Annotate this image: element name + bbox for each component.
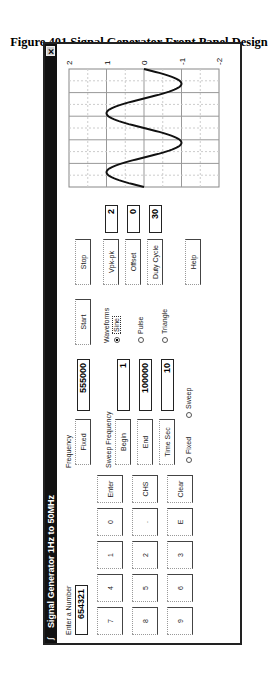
fixed-frequency-button[interactable]: Fixed — [75, 419, 91, 465]
start-button[interactable]: Start — [75, 299, 91, 345]
frequency-label: Frequency — [65, 435, 72, 468]
waveform-chart: 210-1-2 — [59, 49, 239, 191]
keypad-button[interactable]: 4 — [97, 574, 123, 602]
keypad-button[interactable]: 7 — [97, 607, 123, 635]
svg-text:2: 2 — [65, 60, 74, 65]
keypad-button[interactable]: 6 — [167, 574, 193, 602]
title-bar[interactable]: ∫ Signal Generator 1Hz to 50MHz ✕ — [45, 44, 57, 643]
fixed-frequency-field[interactable]: 555000 — [77, 359, 90, 411]
svg-text:1: 1 — [103, 60, 112, 65]
keypad-button[interactable]: 9 — [167, 607, 193, 635]
waveform-pulse-radio[interactable]: Pulse — [137, 316, 144, 343]
keypad-button[interactable]: 1 — [97, 541, 123, 569]
radio-icon — [138, 337, 144, 343]
keypad-button[interactable]: E — [167, 508, 193, 536]
radio-selected-icon — [114, 337, 120, 343]
svg-text:-1: -1 — [178, 57, 187, 65]
sweep-begin-field[interactable]: 1 — [117, 359, 130, 411]
sweep-end-field[interactable]: 100000 — [139, 359, 152, 411]
offset-field[interactable]: 0 — [127, 205, 140, 233]
sweep-time-field[interactable]: 10 — [161, 359, 174, 411]
vpk-pk-field[interactable]: 2 — [105, 205, 118, 233]
entry-field[interactable]: 654321 — [75, 585, 88, 635]
duty-cycle-field[interactable]: 30 — [149, 205, 162, 233]
waveform-triangle-radio[interactable]: Triangle — [161, 309, 168, 343]
window-title: Signal Generator 1Hz to 50MHz — [45, 495, 57, 628]
sweep-frequency-label: Sweep Frequency — [105, 412, 112, 468]
sweep-end-button[interactable]: End — [137, 419, 153, 465]
waveforms-label: Waveforms — [103, 308, 110, 343]
signal-generator-window: ∫ Signal Generator 1Hz to 50MHz ✕ Enter … — [43, 42, 242, 645]
keypad-button[interactable]: 8 — [132, 607, 158, 635]
radio-icon — [186, 412, 192, 418]
help-button[interactable]: Help — [185, 239, 201, 285]
signal-generator-icon: ∫ — [46, 631, 55, 640]
keypad-button[interactable]: 0 — [97, 508, 123, 536]
radio-icon — [162, 337, 168, 343]
offset-button[interactable]: Offset — [125, 239, 141, 285]
keypad-button[interactable]: Enter — [97, 475, 123, 503]
vpk-pk-button[interactable]: Vpk-pk — [103, 239, 119, 285]
keypad-button[interactable]: 2 — [132, 541, 158, 569]
mode-fixed-radio[interactable]: Fixed — [185, 437, 192, 463]
close-icon[interactable]: ✕ — [46, 46, 55, 56]
stop-button[interactable]: Stop — [75, 239, 91, 285]
entry-label: Enter a Number — [65, 586, 72, 635]
duty-cycle-button[interactable]: Duty Cycle — [147, 239, 163, 285]
waveform-plot: 210-1-2 — [59, 49, 239, 191]
keypad-button[interactable]: 5 — [132, 574, 158, 602]
keypad-button[interactable]: 3 — [167, 541, 193, 569]
sweep-time-button[interactable]: Time Sec — [159, 419, 175, 465]
sweep-begin-button[interactable]: Begin — [115, 419, 131, 465]
radio-icon — [186, 457, 192, 463]
keypad-button[interactable]: CHS — [132, 475, 158, 503]
keypad-button[interactable]: Clear — [167, 475, 193, 503]
keypad-button[interactable]: . — [132, 508, 158, 536]
svg-text:-2: -2 — [215, 57, 224, 65]
svg-text:0: 0 — [140, 60, 149, 65]
waveform-sine-radio[interactable]: Sine — [113, 316, 120, 343]
mode-sweep-radio[interactable]: Sweep — [185, 388, 192, 418]
